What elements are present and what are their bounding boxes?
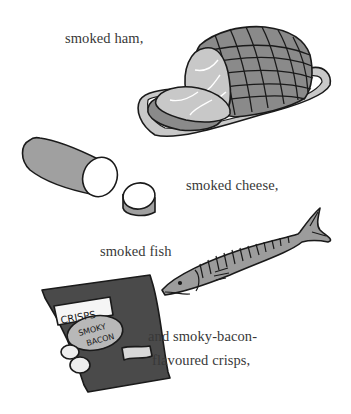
caption-cheese: smoked cheese,	[186, 177, 278, 194]
fish-illustration	[162, 208, 331, 295]
caption-fish: smoked fish	[100, 243, 172, 260]
caption-crisps-line2: flavoured crisps,	[152, 352, 250, 369]
caption-ham: smoked ham,	[65, 30, 143, 47]
fish-body	[162, 208, 331, 295]
cheese-illustration	[23, 138, 158, 216]
ham-illustration	[138, 27, 330, 137]
caption-crisps-line1: and smoky-bacon-	[148, 328, 257, 345]
